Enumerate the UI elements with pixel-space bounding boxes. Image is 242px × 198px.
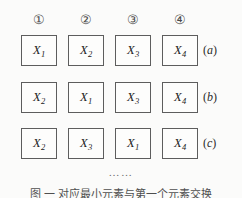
permutation-figure: ① ② ③ ④ X1 X2 X3 X4 (a) X2 X1 X3 (0, 0, 242, 198)
cell-label: X4 (174, 90, 186, 105)
row-tag-paren-close: ) (212, 136, 216, 150)
column-index-3: ③ (114, 11, 152, 29)
table-row: X2 X1 X3 X4 (b) (0, 82, 242, 114)
column-index-4: ④ (161, 11, 199, 29)
cell-row-b-col-2: X1 (68, 82, 104, 113)
cell-row-c-col-3: X1 (115, 128, 151, 159)
cell-row-b-col-3: X3 (115, 82, 151, 113)
cell-row-a-col-4: X4 (162, 35, 198, 66)
cell-label: X2 (33, 136, 45, 151)
row-tag-a: (a) (203, 35, 217, 66)
row-tag-c: (c) (203, 128, 216, 159)
cell-label: X4 (174, 43, 186, 58)
cell-label: X1 (127, 136, 139, 151)
column-index-2: ② (67, 11, 105, 29)
column-index-1: ① (20, 11, 58, 29)
cell-row-b-col-4: X4 (162, 82, 198, 113)
cell-label: X1 (80, 90, 92, 105)
cell-label: X3 (80, 136, 92, 151)
cell-row-c-col-1: X2 (21, 128, 57, 159)
row-tag-paren-close: ) (213, 43, 217, 57)
cell-row-c-col-2: X3 (68, 128, 104, 159)
table-row: X1 X2 X3 X4 (a) (0, 35, 242, 67)
row-tag-paren-close: ) (213, 90, 217, 104)
cell-label: X3 (127, 90, 139, 105)
cell-row-a-col-3: X3 (115, 35, 151, 66)
cell-row-b-col-1: X2 (21, 82, 57, 113)
figure-caption: 图 一 对应最小元素与第一个元素交换 (0, 188, 242, 198)
cell-label: X1 (33, 43, 45, 58)
column-index-header: ① ② ③ ④ (0, 11, 242, 31)
cell-row-c-col-4: X4 (162, 128, 198, 159)
cell-row-a-col-1: X1 (21, 35, 57, 66)
cell-label: X2 (33, 90, 45, 105)
cell-label: X2 (80, 43, 92, 58)
cell-label: X3 (127, 43, 139, 58)
cell-row-a-col-2: X2 (68, 35, 104, 66)
cell-label: X4 (174, 136, 186, 151)
row-tag-b: (b) (203, 82, 217, 113)
continuation-ellipsis: …… (0, 166, 242, 178)
table-row: X2 X3 X1 X4 (c) (0, 128, 242, 160)
